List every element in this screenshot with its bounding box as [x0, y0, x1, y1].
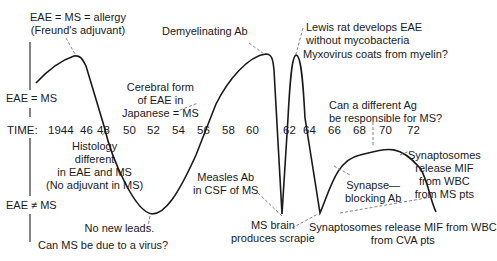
- annotation-allergy: EAE = MS = allergy (Freund's adjuvant): [30, 11, 126, 37]
- annotation-scrapie-line2: produces scrapie: [231, 232, 315, 245]
- tick-70: 70: [379, 124, 392, 137]
- annotation-allergy-line1: EAE = MS = allergy: [30, 11, 126, 24]
- annotation-lewis-line1: Lewis rat develops EAE: [306, 21, 422, 34]
- annotation-measles-line2: in CSF of MS: [193, 184, 258, 197]
- annotation-different-ag-line2: be responsible for MS?: [329, 112, 442, 125]
- annotation-cerebral-line1: Cerebral form: [122, 81, 199, 94]
- annotation-mif-ms-line4: from MS pts: [408, 188, 481, 201]
- annotation-lewis-line2: without mycobacteria: [306, 34, 422, 47]
- annotation-mif-ms-line2: release MIF: [408, 162, 481, 175]
- tick-66: 66: [328, 124, 341, 137]
- annotation-measles-line1: Measles Ab: [193, 171, 258, 184]
- annotation-mif-cva: Synaptosomes release MIF from WBC from C…: [309, 221, 497, 247]
- tick-1944: 1944: [48, 124, 74, 137]
- annotation-mif-ms-line1: Synaptosomes: [408, 149, 481, 162]
- annotation-histology-line3: in EAE and MS: [46, 166, 143, 179]
- annotation-allergy-line2: (Freund's adjuvant): [30, 24, 126, 37]
- annotation-measles: Measles Ab in CSF of MS: [193, 171, 258, 197]
- tick-58: 58: [222, 124, 235, 137]
- annotation-different-ag-line1: Can a different Ag: [329, 99, 442, 112]
- annotation-mif-cva-line1: Synaptosomes release MIF from WBC: [309, 221, 497, 234]
- annotation-cerebral-line3: Japanese = MS: [122, 107, 199, 120]
- tick-72: 72: [407, 124, 420, 137]
- annotation-demyelinating: Demyelinating Ab: [162, 25, 248, 38]
- annotation-no-leads-line2: Can MS be due to a virus?: [38, 239, 168, 252]
- annotation-histology-line2: different: [46, 153, 143, 166]
- label-eae-not-equals-ms: EAE ≠ MS: [6, 199, 57, 212]
- tick-62: 62: [283, 124, 296, 137]
- tick-64: 64: [303, 124, 316, 137]
- annotation-synapse-blocking-line2: blocking Ab: [345, 192, 401, 205]
- timeline-prefix: TIME:: [7, 124, 38, 137]
- annotation-mif-cva-line2: from CVA pts: [309, 234, 497, 247]
- annotation-synapse-blocking-line1: Synapse—: [345, 179, 401, 192]
- annotation-histology-line4: (No adjuvant in MS): [46, 179, 143, 192]
- annotation-lewis-rat: Lewis rat develops EAE without mycobacte…: [306, 21, 422, 47]
- tick-48: 48: [97, 124, 110, 137]
- annotation-scrapie: MS brain produces scrapie: [231, 219, 315, 245]
- tick-52: 52: [147, 124, 160, 137]
- tick-56: 56: [197, 124, 210, 137]
- label-eae-equals-ms: EAE = MS: [6, 92, 57, 105]
- tick-46: 46: [80, 124, 93, 137]
- annotation-synapse-blocking: Synapse— blocking Ab: [345, 179, 401, 205]
- tick-50: 50: [123, 124, 136, 137]
- annotation-mif-ms-line3: from WBC: [408, 175, 481, 188]
- tick-54: 54: [172, 124, 185, 137]
- annotation-different-ag: Can a different Ag be responsible for MS…: [329, 99, 442, 125]
- annotation-no-leads: No new leads. Can MS be due to a virus?: [38, 222, 168, 252]
- annotation-histology: Histology different in EAE and MS (No ad…: [46, 140, 143, 192]
- annotation-histology-line1: Histology: [46, 140, 143, 153]
- annotation-no-leads-line1: No new leads.: [38, 222, 168, 235]
- annotation-mif-ms: Synaptosomes release MIF from WBC from M…: [408, 149, 481, 201]
- annotation-scrapie-line1: MS brain: [231, 219, 315, 232]
- annotation-cerebral: Cerebral form of EAE in Japanese = MS: [122, 81, 199, 120]
- annotation-cerebral-line2: of EAE in: [122, 94, 199, 107]
- tick-68: 68: [353, 124, 366, 137]
- tick-60: 60: [246, 124, 259, 137]
- annotation-myxovirus: Myxovirus coats from myelin?: [303, 48, 448, 61]
